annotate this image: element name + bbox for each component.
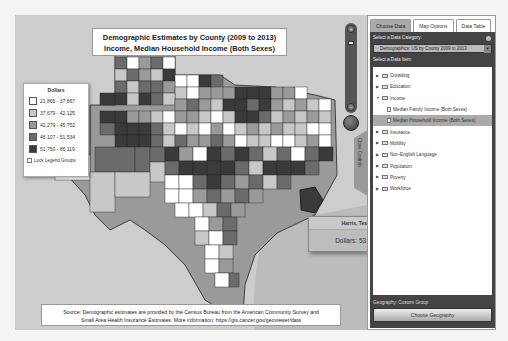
- folder-icon: [382, 74, 388, 78]
- document-icon: [387, 107, 391, 112]
- tree-item-label: Non-English Language: [390, 152, 437, 157]
- expand-arrow-icon[interactable]: ▶: [376, 85, 380, 89]
- tree-item-label: Income: [390, 96, 405, 101]
- legend-range: 21,865 - 37,667: [40, 98, 75, 104]
- legend-swatch: [29, 145, 37, 153]
- map-title-line2: Income, Median Household Income (Both Se…: [93, 43, 286, 54]
- tree-item-label: Crowding: [390, 73, 409, 78]
- tree-item-crowding[interactable]: ▶Crowding: [373, 70, 492, 81]
- lock-legend-label: Lock Legend Groups: [34, 158, 76, 163]
- legend-item: 21,865 - 37,667: [29, 97, 88, 105]
- tree-item-income[interactable]: ▼Income: [373, 93, 492, 104]
- expand-arrow-icon[interactable]: ▶: [376, 141, 380, 145]
- folder-icon: [382, 187, 388, 191]
- tree-item-label: Insurance: [390, 130, 410, 135]
- tree-item-label: Median Household Income (Both Sexes): [393, 118, 475, 123]
- choose-geography-button[interactable]: Choose Geography: [373, 308, 492, 322]
- tree-item-label: Mobility: [390, 141, 406, 146]
- lock-legend-groups-checkbox[interactable]: Lock Legend Groups: [27, 158, 88, 163]
- tree-item-non-english-language[interactable]: ▶Non-English Language: [373, 149, 492, 160]
- legend-item: 46,107 - 51,534: [29, 133, 88, 141]
- expand-arrow-icon[interactable]: ▶: [376, 74, 380, 78]
- geoviewer-app: Demographic Estimates by County (2009 to…: [15, 15, 496, 330]
- category-value: Demographics: US by County 2009 to 2013: [380, 46, 467, 51]
- checkbox-icon[interactable]: [27, 158, 32, 163]
- tree-item-education[interactable]: ▶Education: [373, 81, 492, 92]
- tab-choose-data[interactable]: Choose Data: [370, 19, 411, 32]
- zoom-slider[interactable]: + −: [345, 23, 357, 113]
- close-controls-button[interactable]: Close Controls: [354, 130, 367, 196]
- close-controls-label: Close Controls: [357, 138, 362, 168]
- expand-arrow-icon[interactable]: ▶: [376, 164, 380, 168]
- legend-swatch: [29, 121, 37, 129]
- help-icon[interactable]: [486, 36, 491, 41]
- tree-item-label: Poverty: [390, 175, 406, 180]
- geography-label: Geography: Custom Group: [370, 297, 495, 308]
- zoom-in-button[interactable]: +: [347, 25, 355, 33]
- tree-item-median-household-income[interactable]: Median Household Income (Both Sexes): [373, 115, 492, 126]
- expand-arrow-icon[interactable]: ▶: [376, 130, 380, 134]
- data-item-tree[interactable]: ▶Crowding ▶Education ▼Income Median Fami…: [373, 67, 492, 295]
- document-icon: [387, 118, 391, 123]
- data-panel: Choose Data Map Options Data Table Selec…: [367, 15, 496, 330]
- legend-item: 37,679 - 42,125: [29, 109, 88, 117]
- data-category-select[interactable]: Demographics: US by County 2009 to 2013 …: [373, 44, 492, 53]
- legend-range: 37,679 - 42,125: [40, 110, 75, 116]
- globe-icon[interactable]: [343, 115, 359, 131]
- tree-item-poverty[interactable]: ▶Poverty: [373, 172, 492, 183]
- folder-open-icon: [382, 96, 388, 100]
- choose-data-body: Select a Data Category: Demographics: US…: [370, 32, 495, 328]
- folder-icon: [382, 141, 388, 145]
- legend-range: 51,750 - 86,119: [40, 146, 75, 152]
- folder-icon: [382, 85, 388, 89]
- folder-icon: [382, 164, 388, 168]
- tree-item-label: Population: [390, 164, 412, 169]
- tab-data-table[interactable]: Data Table: [456, 19, 492, 32]
- panel-tabs: Choose Data Map Options Data Table: [368, 16, 495, 32]
- dropdown-arrow-icon[interactable]: ▼: [484, 45, 491, 53]
- tab-map-options[interactable]: Map Options: [413, 19, 453, 32]
- zoom-out-button[interactable]: −: [347, 103, 355, 111]
- legend-swatch: [29, 109, 37, 117]
- tree-item-median-family-income[interactable]: Median Family Income (Both Sexes): [373, 104, 492, 115]
- tree-item-insurance[interactable]: ▶Insurance: [373, 126, 492, 137]
- collapse-arrow-icon[interactable]: ▼: [376, 96, 380, 100]
- legend-title: Dollars: [24, 87, 88, 93]
- item-label: Select a Data Item:: [370, 54, 495, 65]
- legend-swatch: [29, 97, 37, 105]
- legend-item: 42,279 - 45,752: [29, 121, 88, 129]
- tree-item-mobility[interactable]: ▶Mobility: [373, 138, 492, 149]
- category-label: Select a Data Category:: [370, 32, 495, 43]
- folder-icon: [382, 153, 388, 157]
- tree-item-workforce[interactable]: ▶Workforce: [373, 183, 492, 194]
- folder-icon: [382, 130, 388, 134]
- legend-range: 46,107 - 51,534: [40, 134, 75, 140]
- expand-arrow-icon[interactable]: ▶: [376, 153, 380, 157]
- legend-range: 42,279 - 45,752: [40, 122, 75, 128]
- map-title-line1: Demographic Estimates by County (2009 to…: [93, 32, 286, 43]
- legend-item: 51,750 - 86,119: [29, 145, 88, 153]
- source-note: Source: Demographic estimates are provid…: [41, 304, 341, 326]
- map-legend: Dollars 21,865 - 37,667 37,679 - 42,125 …: [23, 83, 89, 177]
- zoom-slider-thumb[interactable]: [348, 41, 354, 45]
- tree-item-population[interactable]: ▶Population: [373, 160, 492, 171]
- expand-arrow-icon[interactable]: ▶: [376, 175, 380, 179]
- legend-swatch: [29, 133, 37, 141]
- source-line1: Source: Demographic estimates are provid…: [42, 308, 340, 316]
- map-title: Demographic Estimates by County (2009 to…: [92, 28, 287, 56]
- expand-arrow-icon[interactable]: ▶: [376, 187, 380, 191]
- map-view[interactable]: Demographic Estimates by County (2009 to…: [15, 15, 367, 330]
- folder-icon: [382, 175, 388, 179]
- tree-item-label: Workforce: [390, 186, 411, 191]
- tree-item-label: Median Family Income (Both Sexes): [393, 107, 467, 112]
- tree-item-label: Education: [390, 84, 410, 89]
- source-line2: Small Area Health Insurance Estimates. M…: [42, 316, 340, 324]
